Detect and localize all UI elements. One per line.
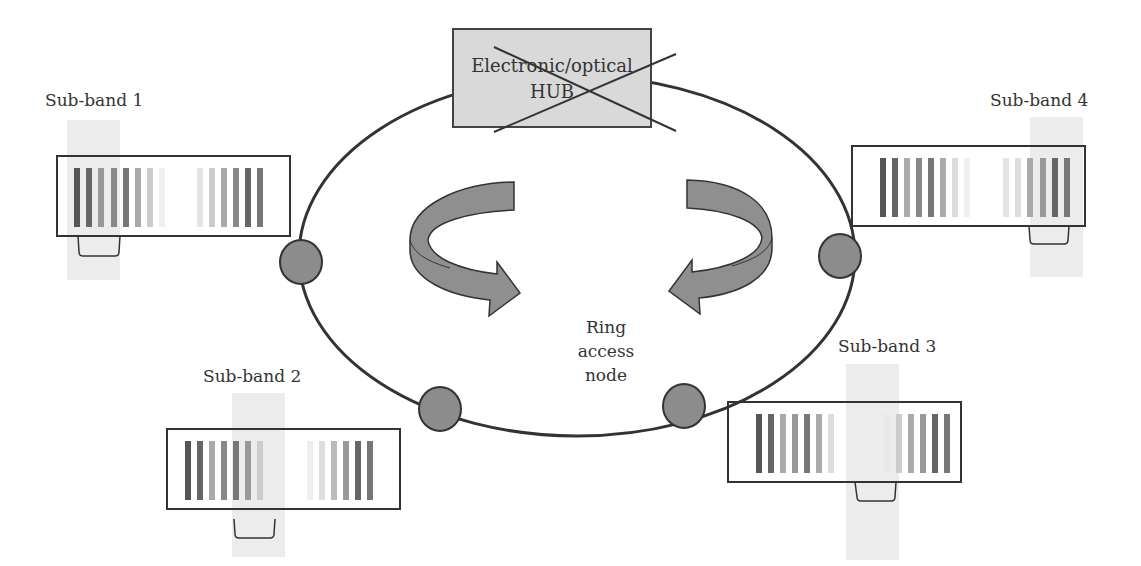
ring-access-node-label: Ring access node <box>578 317 635 385</box>
subband-1-label: Sub-band 1 <box>45 90 143 110</box>
hub-label-line2: HUB <box>530 81 574 102</box>
subband-4: Sub-band 4 <box>852 90 1088 277</box>
hub: Electronic/optical HUB <box>453 29 676 132</box>
counterclockwise-arrow-icon <box>410 182 520 316</box>
subband-3-label: Sub-band 3 <box>838 336 936 356</box>
ring-node-4 <box>819 234 861 278</box>
svg-text:Ring: Ring <box>586 317 626 337</box>
ring-node-1 <box>280 240 322 284</box>
ring-node-2 <box>419 387 461 431</box>
svg-text:node: node <box>585 365 627 385</box>
svg-text:access: access <box>578 341 635 361</box>
ring-node-3 <box>663 384 705 428</box>
subband-3: Sub-band 3 <box>728 336 961 560</box>
wavelength-channels <box>74 168 263 227</box>
subband-2: Sub-band 2 <box>167 366 400 557</box>
subband-4-label: Sub-band 4 <box>990 90 1088 110</box>
ring-network-diagram: Electronic/optical HUB Ring access node … <box>0 0 1141 566</box>
subband-1: Sub-band 1 <box>45 90 290 280</box>
subband-2-label: Sub-band 2 <box>203 366 301 386</box>
wavelength-channels <box>880 158 1070 217</box>
clockwise-arrow-icon <box>669 180 772 314</box>
